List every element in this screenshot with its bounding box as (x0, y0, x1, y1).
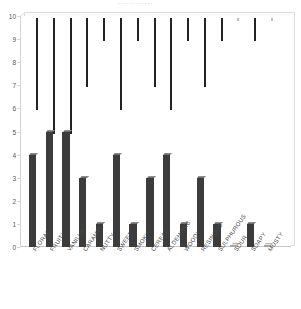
chart-title-remnant: ............ (118, 0, 178, 4)
y-axis-tick-label: 1 (2, 220, 16, 227)
bar-musty (264, 16, 271, 247)
y-axis-tick-label: 4 (2, 151, 16, 158)
y-axis-tick-label: 8 (2, 59, 16, 66)
x-axis-labels: FLORALFRUITYVANILLACARAMELNUTTYSWEETSMOK… (20, 249, 291, 309)
bar-top-face (113, 153, 122, 155)
y-axis-tick-mark (17, 247, 20, 248)
bar-top-face (29, 153, 38, 155)
bar-side-face (103, 18, 105, 41)
y-axis-tick-label: 6 (2, 105, 16, 112)
bar-chart: ............ 109876543210 FLORALFRUITYVA… (0, 0, 301, 309)
bar-nutty (96, 16, 103, 247)
bar-cereal (146, 16, 153, 247)
y-axis: 109876543210 (0, 0, 20, 309)
y-axis-tick-label: 2 (2, 197, 16, 204)
bar-side-face (137, 18, 139, 41)
bar-side-face (86, 18, 88, 87)
bar-side-face (154, 18, 156, 87)
bar-top-face (164, 153, 173, 155)
bar-sulphurous (213, 16, 220, 247)
bar-top-face (147, 176, 156, 178)
bar-side-face (254, 18, 256, 41)
y-axis-tick-label: 0 (2, 244, 16, 251)
bar-side-face (271, 18, 273, 21)
bar-resinous (197, 16, 204, 247)
y-axis-tick-label: 9 (2, 36, 16, 43)
bar-top-face (80, 176, 89, 178)
bar-side-face (120, 18, 122, 110)
bar-smoky (129, 16, 136, 247)
bar-fruity (46, 16, 53, 247)
bar-sweet (113, 16, 120, 247)
bar-side-face (36, 18, 38, 110)
bar-floral (29, 16, 36, 247)
bar-side-face (70, 18, 72, 134)
bar-top-face (197, 176, 206, 178)
bar-side-face (187, 18, 189, 41)
bar-body (62, 132, 69, 248)
bar-side-face (53, 18, 55, 134)
bar-side-face (221, 18, 223, 41)
y-axis-tick-label: 5 (2, 128, 16, 135)
y-axis-tick-label: 3 (2, 174, 16, 181)
y-axis-tick-label: 7 (2, 82, 16, 89)
bar-sour (230, 16, 237, 247)
bar-vanilla (62, 16, 69, 247)
bar-aldehydic (163, 16, 170, 247)
bar-caramel (79, 16, 86, 247)
bar-side-face (237, 18, 239, 21)
bar-top-face (130, 222, 139, 224)
bar-top-face (247, 222, 256, 224)
bar-body (29, 155, 36, 247)
bar-side-face (170, 18, 172, 110)
bar-top-face (63, 130, 72, 132)
bar-top-face (46, 130, 55, 132)
bar-top-face (96, 222, 105, 224)
bars-layer (20, 16, 291, 247)
bar-soapy (247, 16, 254, 247)
y-axis-tick-label: 10 (2, 13, 16, 20)
bar-side-face (204, 18, 206, 87)
bar-woody (180, 16, 187, 247)
